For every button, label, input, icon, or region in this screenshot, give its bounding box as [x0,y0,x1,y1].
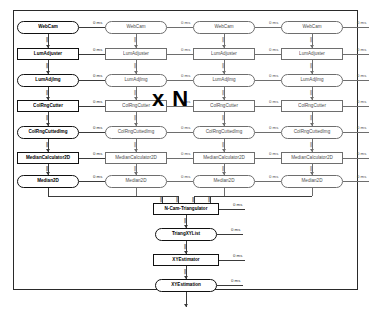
timing-tick [255,158,281,159]
timing-tick [343,132,369,133]
node-mediancalculator2d[interactable]: MedianCalculator2D [193,152,255,164]
node-lumadjimg[interactable]: LumAdjImg [193,74,255,87]
node-label: MedianCalculator2D [115,156,157,161]
buffer-icon: ‖ [222,90,224,95]
timing-tick [343,54,369,55]
buffer-icon: ‖ [222,63,224,68]
node-label: ColRngCuttedImg [294,130,331,135]
node-median2d[interactable]: Median2D [17,175,79,188]
node-label: N-Cam-Triangulator [165,207,208,212]
merge-segment [136,196,178,197]
node-lumadjuster[interactable]: LumAdjuster [17,48,79,60]
timing-label: 0 ms [233,254,242,258]
timing-tick [343,181,369,182]
timing-label: 0 ms [181,126,190,130]
buffer-icon: ‖ [222,142,224,147]
node-label: MedianCalculator2D [291,156,333,161]
timing-tick [167,181,193,182]
timing-label: 0 ms [93,152,102,156]
timing-tick [343,106,369,107]
timing-tick [79,54,105,55]
connector-line [136,188,137,197]
buffer-icon: ‖ [160,197,162,202]
timing-label: 0 ms [357,100,366,104]
buffer-icon: ‖ [192,197,194,202]
node-lumadjuster[interactable]: LumAdjuster [105,48,167,60]
timing-label: 0 ms [93,48,102,52]
buffer-icon: ‖ [46,63,48,68]
timing-tick [217,234,243,235]
buffer-icon: ‖ [184,218,186,223]
timing-tick [79,158,105,159]
timing-tick [255,80,281,81]
node-webcam[interactable]: WebCam [17,21,79,34]
timing-tick [255,106,281,107]
node-lumadjimg[interactable]: LumAdjImg [281,74,343,87]
timing-tick [167,80,193,81]
node-lumadjimg[interactable]: LumAdjImg [17,74,79,87]
timing-label: 0 ms [93,74,102,78]
diagram-canvas: WebCam0 ms‖LumAdjuster0 ms‖LumAdjImg0 ms… [0,0,373,309]
node-xyestimation[interactable]: XYEstimation [155,279,217,292]
node-webcam[interactable]: WebCam [105,21,167,34]
node-triangxylist[interactable]: TriangXYList [155,228,217,241]
connector-line [224,188,225,197]
node-lumadjuster[interactable]: LumAdjuster [193,48,255,60]
buffer-icon: ‖ [134,142,136,147]
node-mediancalculator2d[interactable]: MedianCalculator2D [17,152,79,164]
timing-tick [255,181,281,182]
node-mediancalculator2d[interactable]: MedianCalculator2D [105,152,167,164]
timing-label: 0 ms [231,228,240,232]
timing-tick [79,132,105,133]
node-n-cam-triangulator[interactable]: N-Cam-Triangulator [153,203,219,215]
buffer-icon: ‖ [222,115,224,120]
node-label: LumAdjuster [34,52,62,57]
node-label: ColRngCutter [33,104,63,109]
node-webcam[interactable]: WebCam [281,21,343,34]
node-colrngcuttedimg[interactable]: ColRngCuttedImg [17,126,79,139]
timing-label: 0 ms [269,74,278,78]
buffer-icon: ‖ [134,90,136,95]
timing-label: 0 ms [269,152,278,156]
buffer-icon: ‖ [134,115,136,120]
buffer-icon: ‖ [310,166,312,171]
node-label: Median2D [126,179,147,184]
node-colrngcuttedimg[interactable]: ColRngCuttedImg [105,126,167,139]
buffer-icon: ‖ [176,197,178,202]
node-label: ColRngCutter [298,104,326,109]
node-label: WebCam [126,25,145,30]
node-label: WebCam [302,25,321,30]
node-webcam[interactable]: WebCam [193,21,255,34]
node-xyestimator[interactable]: XYEstimator [153,254,219,266]
node-median2d[interactable]: Median2D [193,175,255,188]
timing-tick [167,27,193,28]
node-lumadjimg[interactable]: LumAdjImg [105,74,167,87]
arrow-head-icon [184,304,188,307]
node-label: XYEstimation [171,283,201,288]
timing-tick [343,27,369,28]
buffer-icon: ‖ [310,115,312,120]
node-median2d[interactable]: Median2D [105,175,167,188]
timing-label: 0 ms [269,21,278,25]
node-colrngcuttedimg[interactable]: ColRngCuttedImg [281,126,343,139]
node-colrngcutter[interactable]: ColRngCutter [281,100,343,112]
node-label: LumAdjImg [124,78,147,83]
node-label: MedianCalculator2D [26,156,70,161]
timing-label: 0 ms [357,152,366,156]
timing-label: 0 ms [357,48,366,52]
timing-label: 0 ms [231,279,240,283]
buffer-icon: ‖ [134,63,136,68]
timing-label: 0 ms [357,74,366,78]
timing-label: 0 ms [357,175,366,179]
node-colrngcuttedimg[interactable]: ColRngCuttedImg [193,126,255,139]
timing-tick [343,80,369,81]
node-colrngcutter[interactable]: ColRngCutter [17,100,79,112]
node-lumadjuster[interactable]: LumAdjuster [281,48,343,60]
node-mediancalculator2d[interactable]: MedianCalculator2D [281,152,343,164]
buffer-icon: ‖ [46,142,48,147]
node-label: WebCam [214,25,233,30]
node-colrngcutter[interactable]: ColRngCutter [193,100,255,112]
timing-label: 0 ms [357,21,366,25]
node-median2d[interactable]: Median2D [281,175,343,188]
timing-label: 0 ms [181,48,190,52]
